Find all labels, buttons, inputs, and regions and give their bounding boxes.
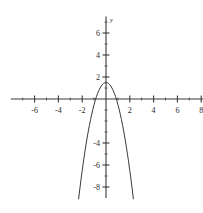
x-axis-tick-label: 2 [128,106,132,115]
graph-figure: -6-4-22468642-4-6-8xy [0,0,203,213]
cartesian-plot: -6-4-22468642-4-6-8xy [0,0,203,213]
y-axis-tick-label: 2 [96,73,100,82]
x-axis-tick-label: 6 [175,106,179,115]
y-axis-tick-label: -6 [93,161,100,170]
y-axis-tick-label: -8 [93,183,100,192]
x-axis-tick-label: -6 [31,106,38,115]
x-axis-tick-label: -2 [79,106,86,115]
y-axis-label: y [109,16,114,24]
x-axis-tick-label: -4 [55,106,62,115]
x-axis-tick-label: 4 [152,106,156,115]
x-axis-tick-label: 8 [199,106,203,115]
y-axis-tick-label: 6 [96,29,100,38]
y-axis-tick-label: -4 [93,139,100,148]
y-axis-tick-label: 4 [96,51,100,60]
x-axis-label: x [202,88,203,96]
